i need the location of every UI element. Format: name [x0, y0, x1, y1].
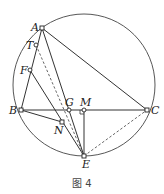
label-N: N [53, 124, 64, 137]
label-F: F [19, 64, 28, 77]
point-T [34, 43, 38, 47]
label-C: C [151, 104, 160, 117]
label-E: E [81, 158, 90, 171]
segment-AC [42, 28, 147, 110]
point-C [145, 108, 149, 112]
figure-caption: 图 4 [72, 178, 92, 189]
label-A: A [30, 21, 39, 34]
label-B: B [8, 104, 17, 117]
point-A [40, 26, 44, 30]
label-M: M [79, 96, 92, 109]
segment-FE [30, 70, 84, 156]
point-B [19, 108, 23, 112]
label-G: G [65, 96, 74, 109]
geometry-figure: A T F B G M C N E 图 4 [0, 0, 164, 194]
point-F [28, 68, 32, 72]
dashed-segment-TE [36, 45, 84, 156]
